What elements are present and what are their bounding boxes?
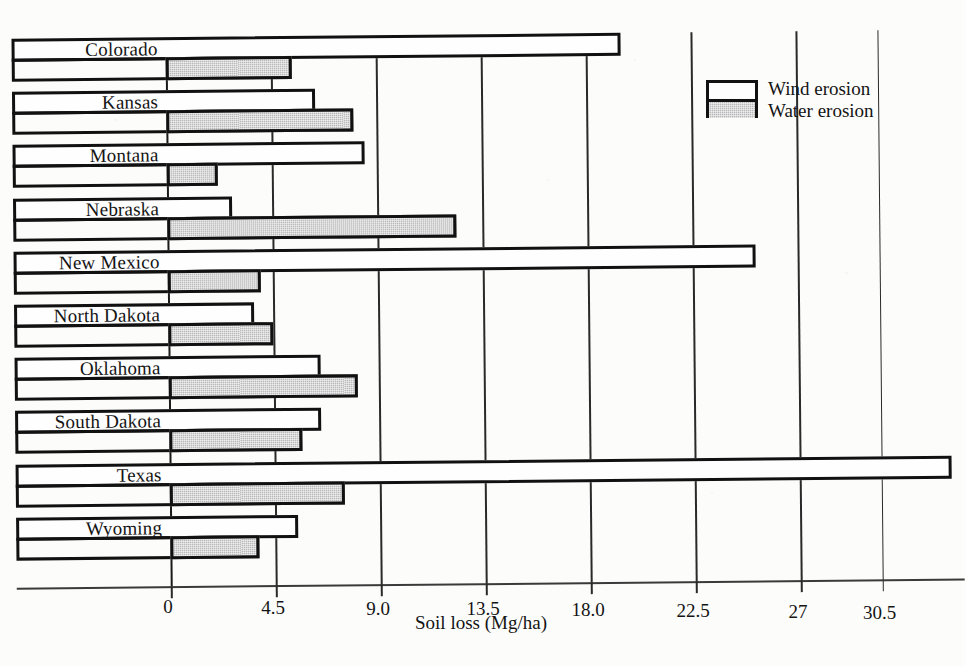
bar-water-north-dakota [168, 322, 273, 346]
bar-water-kansas [166, 109, 353, 134]
bar-water-texas [170, 481, 345, 506]
category-labels: ColoradoKansasMontanaNebraskaNew MexicoN… [0, 0, 959, 5]
bar-water-new-mexico [168, 269, 262, 293]
tick-mark-27 [801, 580, 803, 592]
category-label-oklahoma: Oklahoma [0, 357, 161, 381]
bar-water-nebraska [167, 214, 457, 240]
tick-mark-30.5 [882, 579, 884, 591]
category-label-north-dakota: North Dakota [0, 304, 160, 328]
legend-swatch-wind [706, 80, 758, 118]
category-label-texas: Texas [0, 464, 162, 488]
bar-group-container [0, 0, 959, 5]
gridline-22.5 [690, 32, 697, 581]
category-label-montana: Montana [0, 145, 159, 169]
bar-water-colorado [166, 56, 292, 80]
category-label-new-mexico: New Mexico [0, 251, 160, 275]
category-label-colorado: Colorado [0, 38, 158, 62]
legend-label-wind: Wind erosion [768, 78, 870, 100]
category-label-wyoming: Wyoming [0, 517, 162, 541]
bar-water-south-dakota [169, 428, 302, 452]
gridline-13.5 [480, 34, 487, 583]
legend-swatch-water [709, 99, 755, 118]
tick-mark-18 [591, 582, 593, 594]
x-axis-line [17, 579, 965, 590]
bar-water-montana [167, 163, 219, 186]
category-label-south-dakota: South Dakota [0, 411, 161, 435]
tick-mark-4.5 [276, 585, 278, 597]
bar-water-oklahoma [169, 375, 358, 400]
category-label-nebraska: Nebraska [0, 198, 159, 222]
gridline-9 [375, 35, 382, 584]
legend-label-water: Water erosion [768, 100, 874, 122]
bar-water-wyoming [170, 535, 259, 559]
tick-mark-13.5 [486, 583, 488, 595]
tick-mark-22.5 [696, 581, 698, 593]
category-label-kansas: Kansas [0, 91, 158, 115]
tick-mark-9 [381, 584, 383, 596]
gridline-30.5 [877, 30, 884, 579]
gridline-18 [585, 33, 592, 582]
x-axis-ticks [0, 0, 959, 5]
gridlines [0, 0, 959, 5]
x-axis-title: Soil loss (Mg/ha) [0, 612, 962, 634]
